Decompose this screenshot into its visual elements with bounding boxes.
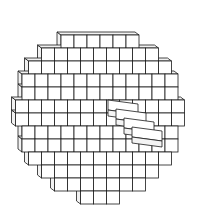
voxel-face xyxy=(22,74,35,87)
voxel-face xyxy=(81,61,94,74)
voxel-face xyxy=(68,113,81,126)
voxel-face xyxy=(16,100,29,113)
voxel-face xyxy=(159,100,172,113)
voxel-face xyxy=(165,87,178,100)
voxel-face xyxy=(29,113,42,126)
voxel-face xyxy=(55,100,68,113)
voxel-face xyxy=(87,87,100,100)
voxel-face xyxy=(68,165,81,178)
voxel-face xyxy=(159,61,172,74)
voxel-face xyxy=(48,74,61,87)
voxel-face xyxy=(100,139,113,152)
voxel-face xyxy=(42,100,55,113)
voxel-face xyxy=(74,139,87,152)
voxel-face xyxy=(113,139,126,152)
voxel-face xyxy=(107,178,120,191)
voxel-face xyxy=(165,126,178,139)
voxel-face xyxy=(61,74,74,87)
voxel-face xyxy=(16,113,29,126)
voxel-face xyxy=(55,165,68,178)
voxel-face xyxy=(133,178,146,191)
voxel-face xyxy=(55,152,68,165)
voxel-face xyxy=(113,35,126,48)
voxel-sphere-figure xyxy=(0,0,201,217)
voxel-face xyxy=(81,48,94,61)
voxel-face xyxy=(100,35,113,48)
voxel-face xyxy=(100,74,113,87)
voxel-face xyxy=(94,165,107,178)
voxel-face xyxy=(35,126,48,139)
voxel-face xyxy=(146,61,159,74)
voxel-face xyxy=(22,87,35,100)
voxel-face xyxy=(133,152,146,165)
voxel-face xyxy=(107,165,120,178)
voxel-face xyxy=(100,87,113,100)
voxel-face xyxy=(74,74,87,87)
voxel-face xyxy=(55,113,68,126)
voxel-face xyxy=(68,48,81,61)
voxel-face xyxy=(146,165,159,178)
voxel-face xyxy=(42,61,55,74)
voxel-face xyxy=(172,113,185,126)
voxel-face xyxy=(81,165,94,178)
voxel-face xyxy=(42,165,55,178)
voxel-face xyxy=(22,126,35,139)
voxel-face xyxy=(61,139,74,152)
voxel-face xyxy=(74,87,87,100)
voxel-face xyxy=(29,61,42,74)
voxel-face xyxy=(42,113,55,126)
voxel-face xyxy=(48,126,61,139)
voxel-face xyxy=(42,152,55,165)
voxel-face xyxy=(107,152,120,165)
voxel-face xyxy=(159,152,172,165)
voxel-face xyxy=(81,113,94,126)
voxel-face xyxy=(81,152,94,165)
voxel-face xyxy=(139,87,152,100)
voxel-face xyxy=(87,74,100,87)
voxel-face xyxy=(100,126,113,139)
voxel-sphere-drawing xyxy=(0,0,201,217)
voxel-face xyxy=(146,152,159,165)
voxel-face xyxy=(107,61,120,74)
voxel-face xyxy=(68,61,81,74)
voxel-face xyxy=(35,87,48,100)
voxel-face xyxy=(87,139,100,152)
voxel-face xyxy=(29,100,42,113)
voxel-face xyxy=(48,87,61,100)
voxel-face xyxy=(159,113,172,126)
voxel-face xyxy=(35,74,48,87)
voxel-face xyxy=(61,35,74,48)
voxel-face xyxy=(120,61,133,74)
voxel-face xyxy=(94,113,107,126)
voxel-face xyxy=(120,165,133,178)
voxel-face xyxy=(172,100,185,113)
voxel-face xyxy=(74,35,87,48)
voxel-face xyxy=(68,100,81,113)
voxel-face xyxy=(55,61,68,74)
voxel-face xyxy=(42,48,55,61)
voxel-face xyxy=(120,178,133,191)
voxel-face xyxy=(94,152,107,165)
voxel-face xyxy=(165,139,178,152)
voxel-face xyxy=(61,87,74,100)
voxel-face xyxy=(120,48,133,61)
voxel-face xyxy=(126,74,139,87)
voxel-face xyxy=(152,74,165,87)
voxel-face xyxy=(81,178,94,191)
voxel-face xyxy=(165,74,178,87)
voxel-face xyxy=(133,165,146,178)
voxel-face xyxy=(48,139,61,152)
voxel-top-face xyxy=(57,32,139,35)
voxel-face xyxy=(55,178,68,191)
voxel-face xyxy=(94,61,107,74)
voxel-face xyxy=(87,35,100,48)
voxel-face xyxy=(61,126,74,139)
voxel-face xyxy=(94,100,107,113)
voxel-face xyxy=(152,87,165,100)
voxel-face xyxy=(35,139,48,152)
voxel-face xyxy=(139,74,152,87)
voxel-face xyxy=(81,191,94,204)
voxel-face xyxy=(126,87,139,100)
voxel-face xyxy=(94,48,107,61)
voxel-face xyxy=(22,139,35,152)
